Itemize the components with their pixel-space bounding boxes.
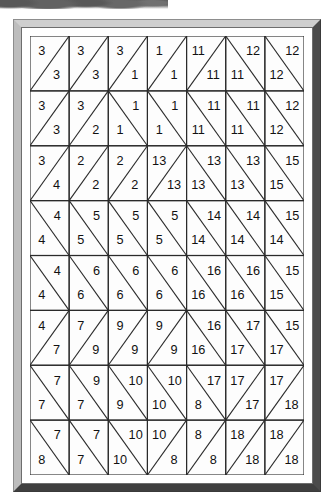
triangle-label: 2 xyxy=(116,153,123,168)
grid-cell[interactable]: 1111 xyxy=(187,36,226,91)
grid-cell[interactable]: 1111 xyxy=(226,91,265,146)
grid-cell[interactable]: 1517 xyxy=(265,310,304,365)
cell-diagonal-slash xyxy=(69,36,108,91)
triangle-label: 4 xyxy=(54,208,61,223)
triangle-label: 17 xyxy=(230,342,244,357)
grid-cell[interactable]: 33 xyxy=(69,36,108,91)
triangle-label: 9 xyxy=(93,372,100,387)
grid-cell[interactable]: 34 xyxy=(30,146,69,201)
grid-cell[interactable]: 1515 xyxy=(265,256,304,311)
triangle-label: 8 xyxy=(38,452,45,467)
grid-cell[interactable]: 47 xyxy=(30,310,69,365)
grid-cell[interactable]: 55 xyxy=(108,201,147,256)
triangle-label: 17 xyxy=(270,342,284,357)
grid-cell[interactable]: 88 xyxy=(187,420,226,475)
cell-diagonal-backslash xyxy=(30,365,69,420)
cell-diagonal-backslash xyxy=(108,91,147,146)
cell-diagonal-slash xyxy=(30,91,69,146)
triangle-label: 4 xyxy=(53,177,60,192)
grid-cell[interactable]: 33 xyxy=(30,36,69,91)
cell-diagonal-slash xyxy=(69,91,108,146)
grid-cell[interactable]: 178 xyxy=(187,365,226,420)
grid-cell[interactable]: 109 xyxy=(108,365,147,420)
grid-cell[interactable]: 55 xyxy=(147,201,186,256)
grid-cell[interactable]: 1010 xyxy=(147,365,186,420)
triangle-label: 9 xyxy=(116,397,123,412)
triangle-label: 5 xyxy=(77,232,84,247)
triangle-label: 7 xyxy=(54,427,61,442)
grid-cell[interactable]: 77 xyxy=(69,420,108,475)
grid-cell[interactable]: 66 xyxy=(147,256,186,311)
grid-cell[interactable]: 108 xyxy=(147,420,186,475)
cell-diagonal-backslash xyxy=(108,256,147,311)
grid-cell[interactable]: 1212 xyxy=(265,36,304,91)
grid-cell[interactable]: 44 xyxy=(30,201,69,256)
grid-cell[interactable]: 1212 xyxy=(265,91,304,146)
triangle-label: 7 xyxy=(54,372,61,387)
grid-cell[interactable]: 1313 xyxy=(147,146,186,201)
grid-cell[interactable]: 66 xyxy=(108,256,147,311)
grid-cell[interactable]: 44 xyxy=(30,256,69,311)
grid-cell[interactable]: 31 xyxy=(108,36,147,91)
triangle-label: 17 xyxy=(245,397,259,412)
grid-cell[interactable]: 11 xyxy=(147,36,186,91)
grid-cell[interactable]: 55 xyxy=(69,201,108,256)
grid-cell[interactable]: 1010 xyxy=(108,420,147,475)
grid-cell[interactable]: 32 xyxy=(69,91,108,146)
grid-cell[interactable]: 1818 xyxy=(226,420,265,475)
triangle-label: 7 xyxy=(93,427,100,442)
grid-cell[interactable]: 1111 xyxy=(187,91,226,146)
triangle-label: 16 xyxy=(191,342,205,357)
triangle-label: 18 xyxy=(284,452,298,467)
grid-cell[interactable]: 97 xyxy=(69,365,108,420)
triangle-label: 15 xyxy=(270,177,284,192)
grid-cell[interactable]: 22 xyxy=(69,146,108,201)
triangle-label: 2 xyxy=(77,153,84,168)
triangle-label: 16 xyxy=(207,263,221,278)
triangle-label: 17 xyxy=(270,372,284,387)
grid-cell[interactable]: 11 xyxy=(147,91,186,146)
grid-cell[interactable]: 1717 xyxy=(226,310,265,365)
grid-cell[interactable]: 22 xyxy=(108,146,147,201)
grid-cell[interactable]: 1313 xyxy=(226,146,265,201)
triangle-label: 14 xyxy=(191,232,205,247)
grid-cell[interactable]: 99 xyxy=(147,310,186,365)
triangle-label: 10 xyxy=(129,427,143,442)
cell-diagonal-backslash xyxy=(147,201,186,256)
triangle-label: 4 xyxy=(38,232,45,247)
grid-cell[interactable]: 1717 xyxy=(226,365,265,420)
triangle-grid-svg[interactable]: 3333311111111211121233321111111111111212… xyxy=(30,36,304,475)
triangle-label: 3 xyxy=(53,122,60,137)
grid-cell[interactable]: 1514 xyxy=(265,201,304,256)
grid-cell[interactable]: 1818 xyxy=(265,420,304,475)
grid-cell[interactable]: 1616 xyxy=(187,310,226,365)
grid-cell[interactable]: 1414 xyxy=(226,201,265,256)
triangle-grid-container[interactable]: 3333311111111211121233321111111111111212… xyxy=(30,36,304,475)
grid-cell[interactable]: 99 xyxy=(108,310,147,365)
triangle-label: 15 xyxy=(285,153,299,168)
cell-diagonal-backslash xyxy=(69,420,108,475)
grid-cell[interactable]: 1313 xyxy=(187,146,226,201)
grid-cell[interactable]: 78 xyxy=(30,420,69,475)
grid-cell[interactable]: 66 xyxy=(69,256,108,311)
grid-cell[interactable]: 1616 xyxy=(187,256,226,311)
triangle-label: 14 xyxy=(230,232,244,247)
grid-cell[interactable]: 77 xyxy=(30,365,69,420)
triangle-label: 9 xyxy=(171,342,178,357)
grid-cell[interactable]: 1718 xyxy=(265,365,304,420)
grid-cell[interactable]: 11 xyxy=(108,91,147,146)
triangle-label: 16 xyxy=(207,318,221,333)
cell-diagonal-backslash xyxy=(108,201,147,256)
grid-cell[interactable]: 1414 xyxy=(187,201,226,256)
grid-cell[interactable]: 33 xyxy=(30,91,69,146)
cell-diagonal-backslash xyxy=(69,365,108,420)
grid-cell[interactable]: 1515 xyxy=(265,146,304,201)
grid-cell[interactable]: 1211 xyxy=(226,36,265,91)
grid-cell[interactable]: 79 xyxy=(69,310,108,365)
triangle-label: 6 xyxy=(77,287,84,302)
grid-cell[interactable]: 1616 xyxy=(226,256,265,311)
triangle-label: 6 xyxy=(132,263,139,278)
cell-diagonal-slash xyxy=(187,420,226,475)
triangle-label: 12 xyxy=(270,122,284,137)
triangle-label: 10 xyxy=(168,372,182,387)
